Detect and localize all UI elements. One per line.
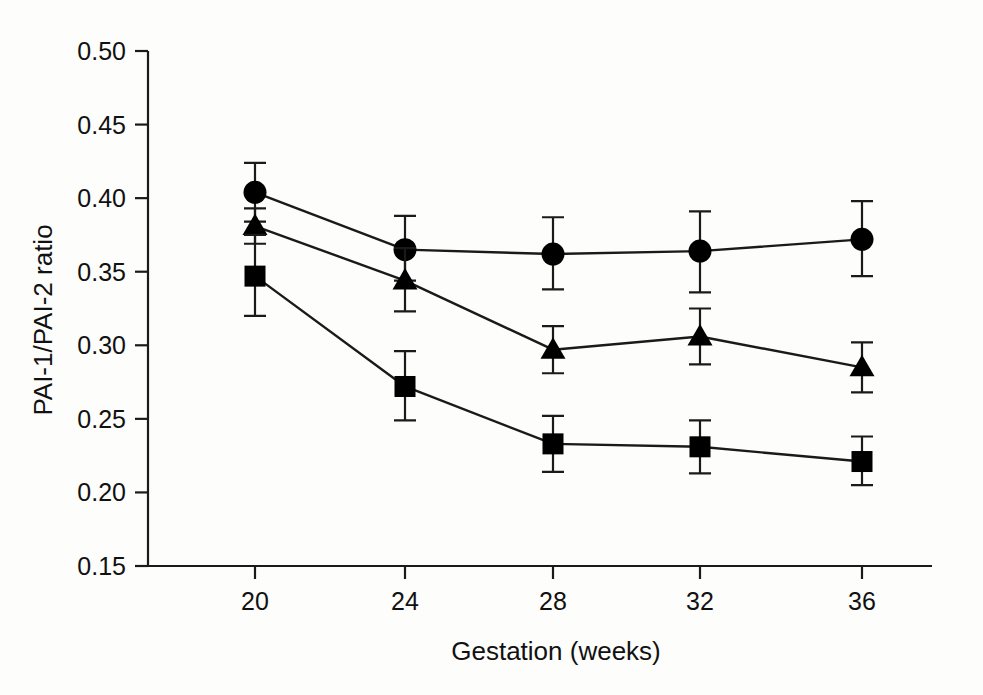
data-point-marker-square bbox=[852, 451, 873, 472]
data-point-marker-square bbox=[690, 436, 711, 457]
chart-plot: 0.150.200.250.300.350.400.450.5020242832… bbox=[0, 0, 983, 695]
x-axis-title: Gestation (weeks) bbox=[451, 636, 661, 666]
x-axis-tick-label: 28 bbox=[539, 587, 567, 615]
data-point-marker-triangle bbox=[243, 214, 268, 236]
data-series-triangle bbox=[243, 208, 875, 392]
y-axis-tick-label: 0.15 bbox=[77, 552, 126, 580]
data-point-marker-circle bbox=[244, 181, 267, 204]
data-point-marker-circle bbox=[851, 228, 874, 251]
x-axis-tick-label: 20 bbox=[241, 587, 269, 615]
y-axis-tick-label: 0.30 bbox=[77, 331, 126, 359]
y-axis-tick-label: 0.45 bbox=[77, 111, 126, 139]
x-axis-tick-label: 32 bbox=[686, 587, 714, 615]
data-point-marker-triangle bbox=[393, 268, 418, 290]
axis-spines bbox=[148, 51, 932, 566]
data-point-marker-triangle bbox=[688, 324, 713, 346]
y-axis-tick-label: 0.20 bbox=[77, 478, 126, 506]
y-axis-tick-label: 0.50 bbox=[77, 37, 126, 65]
data-series-circle bbox=[244, 163, 874, 292]
x-axis-tick-label: 36 bbox=[848, 587, 876, 615]
y-axis-title: PAI-1/PAI-2 ratio bbox=[28, 224, 58, 415]
figure-canvas: 0.150.200.250.300.350.400.450.5020242832… bbox=[0, 0, 983, 695]
series-layer bbox=[243, 163, 875, 485]
data-series-square bbox=[244, 235, 873, 485]
x-axis-tick-label: 24 bbox=[391, 587, 419, 615]
y-axis-tick-label: 0.25 bbox=[77, 405, 126, 433]
data-point-marker-square bbox=[395, 376, 416, 397]
y-axis-tick-label: 0.35 bbox=[77, 258, 126, 286]
data-point-marker-square bbox=[543, 433, 564, 454]
data-point-marker-square bbox=[245, 266, 266, 287]
y-axis-tick-label: 0.40 bbox=[77, 184, 126, 212]
data-point-marker-circle bbox=[689, 240, 712, 263]
data-point-marker-circle bbox=[542, 243, 565, 266]
